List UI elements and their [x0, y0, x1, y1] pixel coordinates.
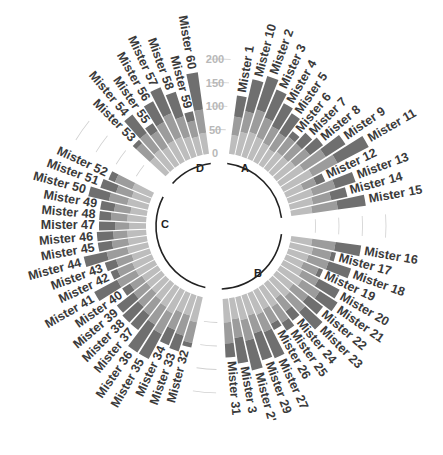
group-arc — [173, 164, 211, 184]
group-arcs-layer: ABCD — [156, 162, 281, 289]
bar-segment — [97, 231, 114, 241]
grid-tick — [338, 218, 339, 235]
circular-stacked-bar-chart: ABCD 050100150200 Mister 1Mister 10Miste… — [0, 0, 443, 455]
bar-segment — [99, 221, 116, 230]
scale-tick-label: 200 — [206, 53, 224, 65]
bar-segment — [111, 213, 128, 222]
bar-segment — [127, 230, 146, 238]
bar-segment — [127, 215, 146, 223]
grid-tick — [200, 344, 217, 346]
bar-segment — [98, 241, 113, 252]
grid-tick — [96, 135, 108, 152]
grid-tick — [385, 214, 386, 237]
scale-tick-label: 150 — [206, 77, 224, 89]
grid-tick — [362, 216, 363, 236]
scale-tick-label: 100 — [206, 100, 224, 112]
scale-tick-label: 50 — [209, 124, 221, 136]
bar-segment — [100, 201, 115, 212]
scale-tick-label: 0 — [212, 147, 218, 159]
group-label: B — [254, 267, 262, 279]
group-label: D — [196, 162, 204, 174]
group-label: A — [241, 162, 249, 174]
grid-tick — [116, 150, 126, 164]
grid-tick — [204, 321, 217, 323]
grid-tick — [76, 121, 90, 141]
bar-labels-layer: Mister 1Mister 10Mister 2Mister 3Mister … — [27, 14, 424, 423]
grid-tick — [136, 165, 144, 176]
bar-segment — [113, 231, 128, 240]
group-label: C — [161, 218, 169, 230]
grid-tick — [196, 367, 216, 370]
bar-segment — [225, 343, 236, 358]
grid-tick — [193, 391, 216, 394]
bar-segment — [115, 222, 129, 230]
grid-tick — [315, 219, 316, 233]
bar-segment — [130, 223, 147, 230]
bar-segment — [224, 322, 234, 344]
bar-segment — [99, 211, 111, 221]
